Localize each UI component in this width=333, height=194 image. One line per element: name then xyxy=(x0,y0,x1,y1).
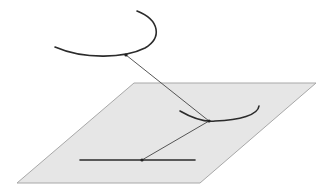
lower-arc-point xyxy=(207,119,210,122)
upper-arc-point xyxy=(124,53,127,56)
projection-plane xyxy=(17,83,316,183)
upper-arc xyxy=(55,11,156,56)
projection-diagram xyxy=(0,0,333,194)
plane-line-point xyxy=(140,158,143,161)
